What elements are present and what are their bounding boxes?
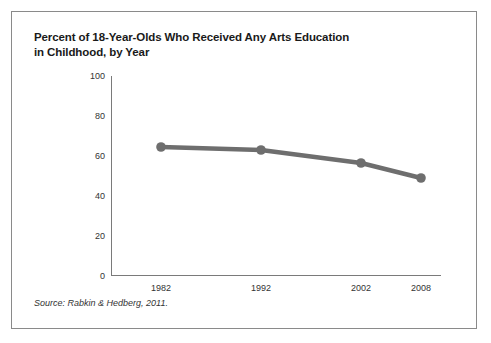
y-tick-label-100: 100 — [90, 71, 105, 81]
y-tick-label-80: 80 — [95, 111, 105, 121]
source-note: Source: Rabkin & Hedberg, 2011. — [34, 298, 168, 308]
chart-title-line-2: in Childhood, by Year — [34, 45, 434, 60]
chart-title-line-1: Percent of 18-Year-Olds Who Received Any… — [34, 31, 349, 43]
data-series-line — [161, 147, 421, 178]
x-tick-label-1982: 1982 — [151, 283, 171, 293]
data-point-2008 — [416, 173, 426, 183]
data-point-2002 — [356, 158, 366, 168]
data-point-1982 — [156, 142, 166, 152]
axes — [111, 76, 441, 276]
data-point-1992 — [256, 145, 266, 155]
y-tick-label-20: 20 — [95, 231, 105, 241]
chart-title: Percent of 18-Year-Olds Who Received Any… — [34, 30, 434, 60]
y-tick-label-0: 0 — [100, 271, 105, 281]
y-tick-label-40: 40 — [95, 191, 105, 201]
figure-panel: Percent of 18-Year-Olds Who Received Any… — [11, 11, 477, 329]
plot-area: 100 80 60 40 20 0 1982 1992 2002 2008 — [111, 76, 441, 276]
x-tick-label-1992: 1992 — [251, 283, 271, 293]
x-tick-label-2002: 2002 — [351, 283, 371, 293]
y-tick-label-60: 60 — [95, 151, 105, 161]
line-chart-svg — [111, 76, 441, 276]
x-tick-label-2008: 2008 — [411, 283, 431, 293]
